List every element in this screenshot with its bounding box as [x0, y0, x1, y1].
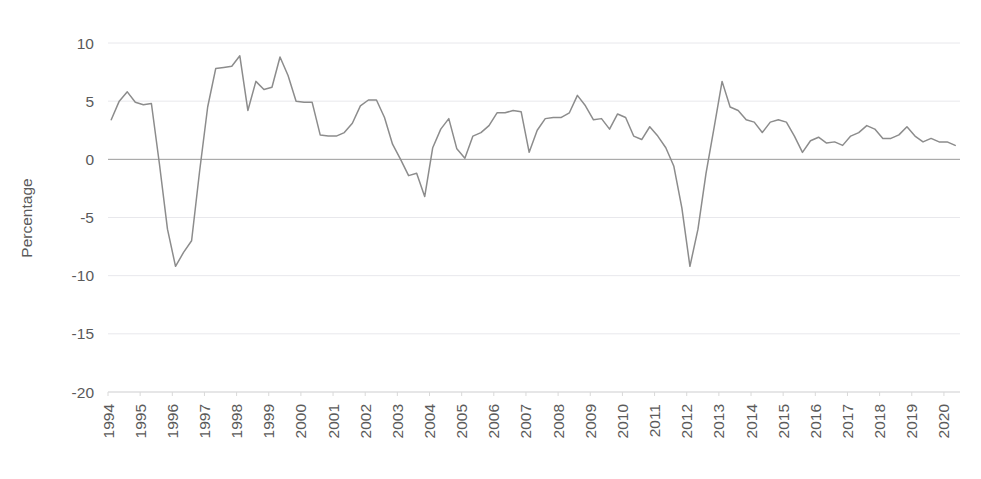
x-axis-tick-label: 2001 [325, 404, 342, 438]
x-axis-tick-label: 2005 [453, 404, 470, 438]
x-axis-tick-label: 2007 [517, 404, 534, 438]
x-axis-tick-label: 2016 [807, 404, 824, 438]
chart-container: 1050-5-10-15-20 199419951996199719981999… [0, 0, 981, 479]
x-axis-tick-label: 2011 [646, 404, 663, 437]
axis-line-group [108, 392, 960, 396]
x-axis-tick-label: 2006 [485, 404, 502, 438]
y-axis-label: Percentage [18, 178, 35, 257]
y-axis-tick-label: -15 [72, 325, 94, 342]
x-axis-tick-label: 2010 [614, 404, 631, 439]
y-axis-tick-label: 10 [77, 35, 95, 52]
x-axis-tick-label: 2017 [839, 404, 856, 438]
x-axis-tick-label: 2003 [389, 404, 406, 438]
x-axis-tick-label: 2020 [935, 404, 952, 439]
x-axis-tick-label: 1994 [100, 404, 117, 439]
x-axis-tick-label: 1998 [228, 404, 245, 438]
x-axis-tick-label: 2014 [743, 404, 760, 439]
x-axis-tick-label: 2018 [871, 404, 888, 438]
y-axis-tick-label: -20 [72, 384, 95, 401]
y-axis-tick-label: 5 [85, 93, 94, 110]
gridline-group [108, 43, 960, 392]
y-axis-tick-label: 0 [85, 151, 94, 168]
y-axis-tick-label: -5 [80, 209, 94, 226]
line-chart: 1050-5-10-15-20 199419951996199719981999… [0, 0, 981, 479]
x-axis-tick-label: 2009 [582, 404, 599, 438]
y-axis-tick-group: 1050-5-10-15-20 [72, 35, 95, 401]
x-axis-tick-label: 2008 [550, 404, 567, 438]
x-axis-tick-label: 1999 [260, 404, 277, 438]
x-axis-tick-label: 1997 [196, 404, 213, 438]
x-axis-tick-label: 2004 [421, 404, 438, 439]
x-axis-tick-label: 2013 [710, 404, 727, 438]
x-axis-tick-group: 1994199519961997199819992000200120022003… [100, 404, 953, 439]
x-axis-tick-label: 1996 [164, 404, 181, 438]
x-axis-tick-label: 2012 [678, 404, 695, 438]
x-axis-tick-label: 2002 [357, 404, 374, 438]
x-axis-tick-label: 2019 [903, 404, 920, 438]
x-axis-tick-label: 2000 [292, 404, 309, 439]
x-axis-tick-label: 2015 [775, 404, 792, 438]
y-axis-tick-label: -10 [72, 267, 95, 284]
data-series-line [111, 56, 955, 267]
x-axis-tick-label: 1995 [132, 404, 149, 438]
